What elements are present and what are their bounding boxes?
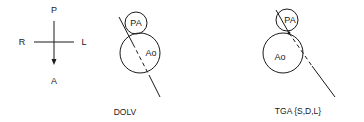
septal-line-solid <box>312 66 335 97</box>
ao-label: Ao <box>274 52 285 62</box>
septal-line-solid <box>149 75 160 97</box>
panel-caption: DOLV <box>114 107 137 117</box>
compass-label-bottom: A <box>51 76 57 86</box>
arrow-down-icon <box>52 59 57 65</box>
panel-tga: PA Ao TGA {S,D,L} <box>263 9 335 116</box>
pa-label: PA <box>130 18 141 28</box>
diagram-canvas: P A R L PA Ao DOLV PA Ao TGA {S,D,L} <box>0 0 364 122</box>
orientation-compass: P A R L <box>19 5 87 86</box>
compass-label-top: P <box>51 5 57 15</box>
junction-dot <box>288 32 291 35</box>
septal-line-dashed <box>289 33 312 66</box>
compass-label-left: R <box>19 37 26 47</box>
ao-label: Ao <box>145 48 156 58</box>
panel-dolv: PA Ao DOLV <box>114 12 160 117</box>
pa-label: PA <box>284 15 295 25</box>
panel-caption: TGA {S,D,L} <box>275 106 321 116</box>
compass-label-right: L <box>81 37 86 47</box>
